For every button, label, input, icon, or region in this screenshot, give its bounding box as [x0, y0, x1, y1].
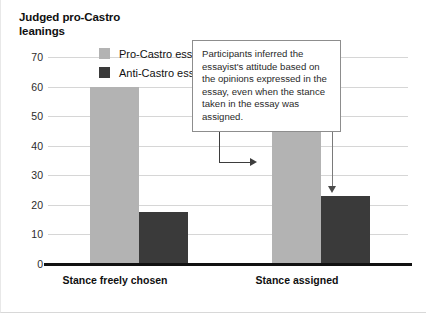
callout-leader-line-1-horizontal	[219, 162, 252, 163]
x-axis-baseline	[44, 263, 412, 266]
legend-item-pro-castro: Pro-Castro essay	[99, 44, 206, 63]
y-tick-30: 30	[19, 169, 43, 181]
callout-arrow-icon-2	[328, 186, 336, 193]
bar-freely-chosen-anti	[139, 212, 188, 264]
legend: Pro-Castro essay Anti-Castro essay	[99, 44, 206, 82]
y-tick-70: 70	[19, 51, 43, 63]
y-tick-10: 10	[19, 228, 43, 240]
y-axis: 70 60 50 40 30 20 10 0	[15, 57, 43, 264]
chart-title: Judged pro-Castro leanings	[19, 10, 199, 38]
y-tick-20: 20	[19, 199, 43, 211]
bar-assigned-anti	[321, 196, 370, 264]
chart-title-line1: Judged pro-Castro	[19, 11, 120, 23]
chart-figure: Judged pro-Castro leanings 70 60 50 40 3…	[0, 0, 426, 313]
x-label-assigned: Stance assigned	[222, 274, 372, 286]
bar-assigned-pro	[272, 131, 321, 264]
legend-swatch-icon-pro-castro	[99, 48, 110, 59]
legend-swatch-icon-anti-castro	[99, 67, 110, 78]
y-tick-50: 50	[19, 110, 43, 122]
chart-title-line2: leanings	[19, 25, 65, 37]
legend-item-anti-castro: Anti-Castro essay	[99, 63, 206, 82]
x-label-freely-chosen: Stance freely chosen	[40, 274, 190, 286]
annotation-callout: Participants inferred the essayist's att…	[192, 40, 341, 132]
bar-freely-chosen-pro	[90, 87, 139, 264]
callout-arrow-icon-1	[250, 158, 257, 166]
y-tick-40: 40	[19, 140, 43, 152]
y-tick-60: 60	[19, 81, 43, 93]
y-tick-0: 0	[19, 258, 43, 270]
